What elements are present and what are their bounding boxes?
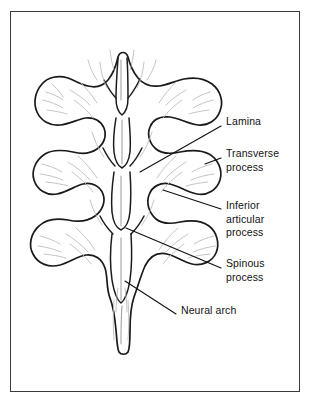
label-neural-arch: Neural arch: [181, 304, 236, 318]
figure-root: Lamina Transverse process Inferior artic…: [0, 0, 310, 405]
label-lamina: Lamina: [226, 115, 261, 129]
label-inferior-articular-process: Inferior articular process: [226, 199, 264, 240]
label-transverse-process: Transverse process: [226, 147, 279, 174]
label-spinous-process: Spinous process: [226, 257, 265, 284]
